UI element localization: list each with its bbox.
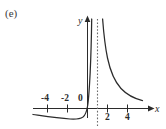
tick-label-pos2: 2	[105, 112, 110, 122]
figure-panel: (e) x y -4 -2 2 4 0	[0, 0, 166, 129]
graph-plot: x y -4 -2 2 4 0	[0, 0, 166, 129]
tick-label-pos4: 4	[125, 112, 130, 122]
curve-right-branch	[103, 19, 143, 101]
tick-label-neg4: -4	[41, 93, 49, 103]
x-axis: x	[33, 103, 160, 114]
curve-left-branch	[33, 19, 92, 119]
y-axis-label: y	[77, 15, 83, 26]
tick-label-neg2: -2	[61, 93, 69, 103]
y-axis-arrow-icon	[85, 16, 91, 23]
origin-label: 0	[78, 93, 83, 103]
x-axis-label: x	[154, 103, 160, 114]
x-axis-arrow-icon	[148, 106, 155, 112]
